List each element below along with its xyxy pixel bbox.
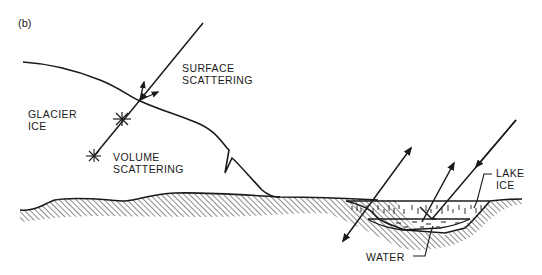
label-line: GLACIER: [28, 108, 77, 120]
label-line: SCATTERING: [113, 163, 184, 175]
label-lake-ice: LAKE ICE: [496, 167, 524, 191]
label-water: WATER: [366, 251, 405, 263]
refracted-ray-glacier: [94, 100, 140, 156]
panel-label: (b): [18, 17, 31, 29]
label-line: VOLUME: [113, 151, 184, 163]
label-line: ICE: [496, 179, 524, 191]
label-surface-scattering: SURFACE SCATTERING: [182, 62, 253, 86]
label-line: ICE: [28, 120, 77, 132]
label-glacier-ice: GLACIER ICE: [28, 108, 77, 132]
label-line: SCATTERING: [182, 74, 253, 86]
lake-ray-incident-arrowpart: [476, 120, 516, 167]
label-volume-scattering: VOLUME SCATTERING: [113, 151, 184, 175]
volume-scatter-star-2: [86, 149, 101, 162]
glacier-lake-scattering-diagram: [0, 0, 542, 275]
label-line: SURFACE: [182, 62, 253, 74]
label-line: LAKE: [496, 167, 524, 179]
